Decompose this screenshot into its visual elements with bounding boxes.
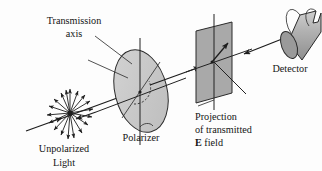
polarizer-label: Polarizer — [123, 132, 160, 143]
detector-label: Detector — [272, 63, 308, 74]
unpolarized-light-label-line2: Light — [53, 157, 75, 168]
projection-label-line2: of transmitted — [195, 124, 252, 135]
transmission-axis-label-line2: axis — [66, 28, 82, 39]
unpolarized-light-label-line1: Unpolarized — [39, 143, 89, 154]
polarizer-disk — [96, 38, 186, 145]
detector-cylinder — [277, 9, 321, 61]
detector-ray — [244, 39, 282, 54]
transmission-axis-label-line1: Transmission — [47, 15, 102, 26]
polarization-figure: Transmission axis Unpolarized Light Pola… — [0, 0, 322, 171]
diagram-canvas: Transmission axis Unpolarized Light Pola… — [0, 0, 322, 171]
projection-label-line1: Projection — [195, 111, 237, 122]
unpolarized-light-burst — [47, 89, 93, 139]
projection-label-line3: E field — [195, 137, 223, 148]
left-axis-arrow — [76, 112, 96, 119]
e-field-word: field — [202, 137, 223, 148]
projection-plane — [186, 14, 252, 110]
